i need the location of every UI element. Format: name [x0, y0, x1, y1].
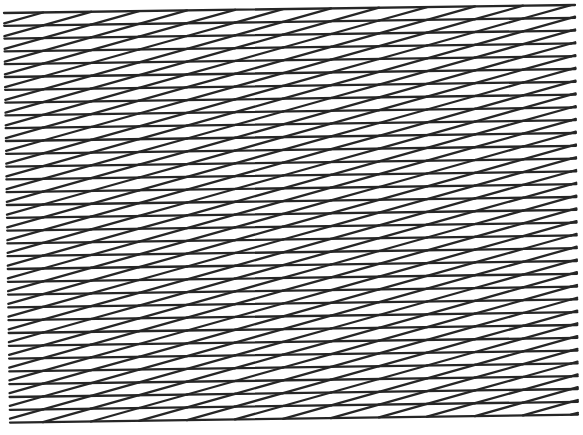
zigzag-line-pattern: [0, 0, 583, 435]
line-pattern-figure: [0, 0, 583, 435]
